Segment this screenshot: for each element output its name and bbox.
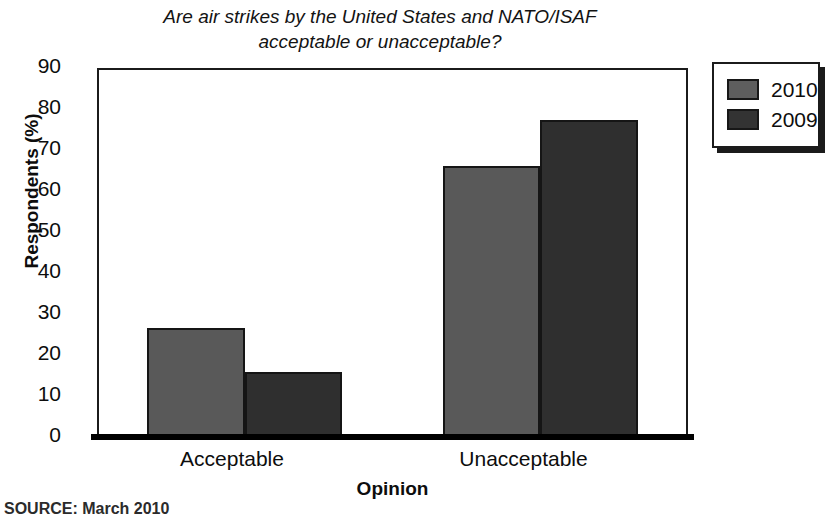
legend-item-2009[interactable]: 2009 <box>714 104 818 134</box>
source-note: SOURCE: March 2010 <box>4 500 169 515</box>
x-tick-label-acceptable: Acceptable <box>172 447 292 471</box>
bar-acceptable-2010[interactable] <box>147 328 245 437</box>
legend-label-2009: 2009 <box>771 109 818 130</box>
legend-swatch-2009-icon <box>727 109 759 130</box>
legend-swatch-2010-icon <box>727 79 759 100</box>
legend-label-2010: 2010 <box>771 79 818 100</box>
legend-item-2010[interactable]: 2010 <box>714 74 818 104</box>
bars-layer <box>0 0 832 437</box>
legend: 2010 2009 <box>712 62 820 148</box>
x-axis-baseline <box>91 434 694 440</box>
bar-unacceptable-2010[interactable] <box>443 166 541 437</box>
bar-acceptable-2009[interactable] <box>245 372 343 437</box>
x-tick-label-unacceptable: Unacceptable <box>451 447 596 471</box>
x-axis-title: Opinion <box>97 478 688 500</box>
bar-unacceptable-2009[interactable] <box>540 120 638 437</box>
